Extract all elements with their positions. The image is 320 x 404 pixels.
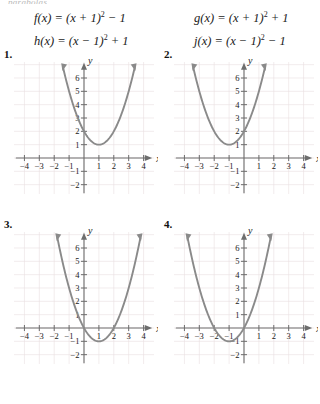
- y-tick-label: 6: [235, 73, 239, 83]
- axes: [16, 67, 147, 193]
- y-tick-label: 2: [75, 126, 79, 136]
- equation-f: f(x) = (x + 1)2 − 1: [34, 5, 129, 28]
- x-tick-label: 2: [272, 331, 276, 341]
- graph-4: −4−3−2−11234−2−1123456xy: [170, 228, 318, 368]
- axis-arrowheads: [81, 63, 152, 161]
- problem-4: 4. −4−3−2−11234−2−1123456xy: [160, 218, 320, 404]
- y-axis-label: y: [247, 228, 253, 236]
- y-tick-label: 5: [75, 86, 79, 96]
- y-tick-label: 6: [75, 243, 79, 253]
- y-tick-label: 1: [75, 140, 79, 150]
- x-tick-label: −3: [35, 161, 44, 171]
- x-tick-label: −3: [195, 161, 204, 171]
- x-tick-label: 4: [141, 161, 146, 171]
- x-axis-label: x: [315, 323, 318, 334]
- axes: [176, 237, 307, 363]
- axis-name-labels: xy: [247, 58, 318, 164]
- axis-arrowheads: [81, 233, 152, 331]
- x-tick-label: −2: [50, 331, 59, 341]
- chart-svg-4: −4−3−2−11234−2−1123456xy: [170, 228, 318, 368]
- equation-column-left: f(x) = (x + 1)2 − 1 h(x) = (x − 1)2 + 1: [34, 5, 129, 51]
- y-tick-label: 3: [75, 283, 79, 293]
- problem-3: 3. −4−3−2−11234−2−1123456xy: [0, 218, 160, 404]
- axis-name-labels: xy: [247, 228, 318, 334]
- problem-1: 1. −4−3−2−11234−2−1123456xy: [0, 48, 160, 234]
- y-tick-label: 3: [235, 283, 239, 293]
- x-tick-label: −3: [195, 331, 204, 341]
- x-tick-label: −4: [180, 161, 190, 171]
- x-tick-label: −4: [20, 331, 30, 341]
- x-tick-label: 1: [257, 331, 261, 341]
- worksheet-page: parabolas f(x) = (x + 1)2 − 1 h(x) = (x …: [0, 0, 320, 404]
- x-tick-label: 2: [272, 161, 276, 171]
- chart-svg-2: −4−3−2−11234−2−1123456xy: [170, 58, 318, 198]
- x-tick-label: 3: [287, 161, 291, 171]
- y-tick-label: 6: [235, 243, 239, 253]
- y-tick-label: −2: [230, 350, 239, 360]
- x-tick-label: 1: [97, 331, 101, 341]
- y-tick-label: −1: [70, 336, 79, 346]
- axes: [176, 67, 307, 193]
- y-tick-label: 2: [75, 296, 79, 306]
- x-tick-label: −2: [50, 161, 59, 171]
- x-tick-label: −4: [180, 331, 190, 341]
- x-tick-label: 1: [257, 161, 261, 171]
- y-tick-label: 5: [235, 86, 239, 96]
- axes: [16, 237, 147, 363]
- y-tick-label: 6: [75, 73, 79, 83]
- x-tick-label: 2: [112, 161, 116, 171]
- problem-2: 2. −4−3−2−11234−2−1123456xy: [160, 48, 320, 234]
- x-tick-label: 4: [141, 331, 146, 341]
- x-tick-label: −2: [210, 161, 219, 171]
- y-tick-label: 5: [75, 256, 79, 266]
- equation-g: g(x) = (x + 1)2 + 1: [194, 5, 289, 28]
- axis-arrowheads: [241, 233, 312, 331]
- y-tick-label: 3: [235, 113, 239, 123]
- y-tick-label: 2: [235, 296, 239, 306]
- y-axis-label: y: [247, 58, 253, 66]
- y-tick-label: −2: [70, 350, 79, 360]
- axis-name-labels: xy: [87, 228, 158, 334]
- x-tick-label: −3: [35, 331, 44, 341]
- chart-svg-1: −4−3−2−11234−2−1123456xy: [10, 58, 158, 198]
- y-tick-label: 5: [235, 256, 239, 266]
- x-tick-label: 3: [127, 161, 131, 171]
- y-tick-label: 1: [235, 310, 239, 320]
- y-axis-label: y: [87, 58, 93, 66]
- x-axis-label: x: [155, 153, 158, 164]
- y-tick-label: 2: [235, 126, 239, 136]
- y-tick-label: −2: [70, 180, 79, 190]
- chart-svg-3: −4−3−2−11234−2−1123456xy: [10, 228, 158, 368]
- y-axis-label: y: [87, 228, 93, 236]
- equation-column-right: g(x) = (x + 1)2 + 1 j(x) = (x − 1)2 − 1: [194, 5, 289, 51]
- graph-2: −4−3−2−11234−2−1123456xy: [170, 58, 318, 198]
- y-tick-label: −2: [230, 180, 239, 190]
- x-tick-label: 1: [97, 161, 101, 171]
- x-axis-label: x: [315, 153, 318, 164]
- cut-off-header: parabolas: [8, 0, 47, 4]
- x-tick-label: 3: [287, 331, 291, 341]
- equation-block: f(x) = (x + 1)2 − 1 h(x) = (x − 1)2 + 1 …: [0, 5, 320, 45]
- graph-1: −4−3−2−11234−2−1123456xy: [10, 58, 158, 198]
- y-tick-label: −1: [70, 166, 79, 176]
- x-tick-label: 4: [301, 161, 306, 171]
- graph-3: −4−3−2−11234−2−1123456xy: [10, 228, 158, 368]
- x-tick-label: −4: [20, 161, 30, 171]
- x-tick-label: 4: [301, 331, 306, 341]
- y-tick-label: −1: [230, 166, 239, 176]
- x-axis-label: x: [155, 323, 158, 334]
- x-tick-label: 3: [127, 331, 131, 341]
